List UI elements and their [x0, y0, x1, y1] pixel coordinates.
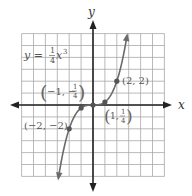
point-label-neg1-num: 1 — [73, 83, 77, 91]
cubic-function-graph: x y y = 1 4 x 3 (2, 2) (−2, −2) ( 1, 1 4… — [0, 0, 192, 196]
data-point-marker — [102, 99, 107, 104]
equation-fraction-denominator: 4 — [50, 56, 55, 65]
axes: x y — [10, 5, 185, 192]
point-label-neg1-neg-quarter: ( −1, − 1 4 ) — [40, 81, 85, 103]
data-point-marker — [114, 79, 119, 84]
point-label-neg2-neg2: (−2, −2) — [24, 120, 68, 131]
equation-fraction-numerator: 1 — [50, 46, 55, 55]
equation-exponent: 3 — [63, 48, 67, 56]
point-label-1-num: 1 — [121, 108, 125, 116]
y-axis-down-arrow-icon — [90, 183, 97, 192]
point-label-neg2-neg2-text: (−2, −2) — [24, 120, 68, 131]
point-label-2-2: (2, 2) — [122, 75, 149, 86]
x-axis-left-arrow-icon — [10, 102, 19, 109]
paren-close: ) — [78, 81, 85, 103]
y-axis-up-arrow-icon — [90, 20, 97, 29]
x-axis-label: x — [178, 98, 185, 112]
data-point-marker — [79, 105, 84, 110]
y-axis-label: y — [87, 5, 95, 19]
point-label-1-x: 1, — [110, 111, 119, 121]
equation-variable: x — [56, 49, 63, 62]
x-axis-right-arrow-icon — [163, 102, 172, 109]
point-label-1-quarter: ( 1, 1 4 ) — [104, 106, 133, 126]
point-label-2-2-text: (2, 2) — [122, 75, 149, 86]
paren-close: ) — [126, 106, 133, 126]
equation-lhs: y = — [23, 49, 43, 62]
data-point-marker — [90, 102, 95, 107]
